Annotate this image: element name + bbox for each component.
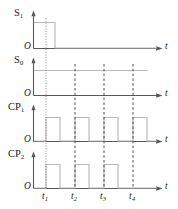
tick-label-t4: t4 [129, 192, 135, 202]
s1-y-axis-arrow [31, 11, 35, 17]
signal-row-s1 [31, 11, 162, 51]
origin-label-s1: O [24, 42, 31, 52]
origin-label-cp2: O [24, 182, 31, 192]
s1-waveform [34, 23, 157, 49]
timing-diagram-figure: S1 O t S0 O t CP1 O t CP2 O t t1 t2 t3 t… [0, 0, 178, 209]
tick-label-t1: t1 [42, 192, 48, 202]
origin-label-cp1: O [24, 135, 31, 145]
signal-label-s0: S0 [14, 55, 23, 66]
signal-label-cp1: CP1 [8, 102, 24, 113]
s0-t-axis-arrow [156, 93, 162, 97]
signal-label-cp2: CP2 [8, 149, 24, 160]
signal-row-cp1 [31, 105, 162, 144]
s0-y-axis-arrow [31, 58, 35, 64]
timing-diagram-canvas [0, 0, 178, 209]
signal-label-s1: S1 [14, 8, 23, 19]
cp2-waveform [34, 165, 157, 189]
s1-t-axis-arrow [156, 46, 162, 50]
cp2-y-axis-arrow [31, 152, 35, 158]
cp1-y-axis-arrow [31, 105, 35, 111]
origin-label-s0: O [24, 89, 31, 99]
signal-row-cp2 [31, 152, 162, 191]
cp2-t-axis-arrow [156, 186, 162, 190]
cp1-waveform [34, 118, 157, 142]
signal-row-s0 [31, 58, 162, 98]
tick-label-t2: t2 [71, 192, 77, 202]
time-axis-label-s0: t [165, 89, 168, 99]
time-axis-label-cp2: t [165, 182, 168, 192]
tick-label-t3: t3 [100, 192, 106, 202]
cp1-t-axis-arrow [156, 139, 162, 143]
time-axis-label-cp1: t [165, 135, 168, 145]
time-axis-label-s1: t [165, 42, 168, 52]
